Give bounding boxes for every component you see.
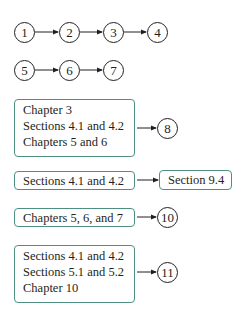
- prereq-line: Sections 4.1 and 4.2: [23, 118, 134, 134]
- node-6: 6: [59, 60, 80, 81]
- prereq-box-10: Chapters 5, 6, and 7: [14, 208, 135, 227]
- node-3: 3: [103, 22, 124, 43]
- prereq-line: Chapters 5 and 6: [23, 134, 134, 150]
- node-4: 4: [147, 22, 168, 43]
- prereq-line: Sections 4.1 and 4.2: [23, 173, 134, 189]
- node-5: 5: [14, 60, 35, 81]
- prereq-line: Sections 5.1 and 5.2: [23, 264, 134, 280]
- prereq-line: Chapter 3: [23, 102, 134, 118]
- node-2: 2: [59, 22, 80, 43]
- node-10: 10: [157, 207, 178, 228]
- prereq-line: Chapters 5, 6, and 7: [23, 210, 134, 226]
- node-1: 1: [14, 22, 35, 43]
- node-11: 11: [157, 262, 178, 283]
- prereq-line: Sections 4.1 and 4.2: [23, 248, 134, 264]
- prereq-box-11: Sections 4.1 and 4.2 Sections 5.1 and 5.…: [14, 245, 135, 303]
- prereq-box-8: Chapter 3 Sections 4.1 and 4.2 Chapters …: [14, 99, 135, 157]
- node-7: 7: [103, 60, 124, 81]
- node-8: 8: [157, 118, 178, 139]
- target-box-section-9-4: Section 9.4: [159, 170, 232, 190]
- prereq-line: Chapter 10: [23, 280, 134, 296]
- prereq-box-9-4: Sections 4.1 and 4.2: [14, 171, 135, 190]
